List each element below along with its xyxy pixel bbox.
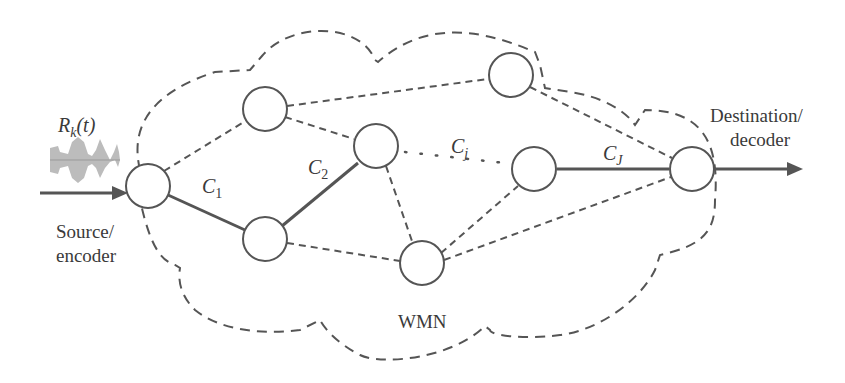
- node-top-right: [489, 53, 533, 97]
- link-bottom-right: [441, 186, 518, 253]
- node-source: [126, 164, 170, 208]
- link-topleft-topright: [287, 79, 488, 106]
- link-label-c2: C2: [308, 156, 328, 182]
- output-arrow-head: [787, 162, 803, 176]
- source-label: Source/ encoder: [56, 221, 119, 266]
- link-bottomleft-bottom: [287, 243, 400, 261]
- node-bottom-left: [243, 217, 287, 261]
- node-destination: [670, 147, 714, 191]
- link-label-c1: C1: [202, 175, 222, 201]
- wmn-diagram: Rk(t) Source/ encoder Destination/ decod…: [0, 0, 845, 383]
- node-top-left: [243, 87, 287, 131]
- signal-waveform-icon: [50, 137, 120, 183]
- node-right: [512, 147, 556, 191]
- selected-route: [168, 163, 669, 230]
- link-topleft-middle: [285, 117, 354, 139]
- link-bottom-destination: [444, 177, 671, 260]
- node-bottom: [400, 241, 444, 285]
- node-middle: [354, 124, 398, 168]
- link-label-cJ: CJ: [603, 142, 623, 168]
- link-source-topleft: [164, 120, 247, 171]
- network-label: WMN: [398, 311, 447, 332]
- link-topright-destination: [530, 87, 672, 158]
- destination-label: Destination/ decoder: [710, 105, 808, 150]
- link-middle-bottom: [386, 166, 413, 244]
- link-c1: [168, 195, 245, 230]
- signal-label: Rk(t): [57, 114, 96, 140]
